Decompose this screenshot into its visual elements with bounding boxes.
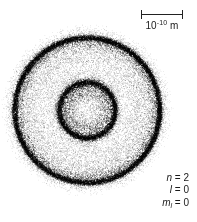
electron-cloud-figure: 10-10 m n = 2 l = 0 ml = 0 (0, 0, 197, 222)
quantum-number-annotations: n = 2 l = 0 ml = 0 (162, 172, 189, 211)
scale-bar-value: 10 (145, 20, 156, 31)
quantum-equals-n: = (175, 172, 181, 183)
scale-bar-exponent: -10 (157, 19, 167, 26)
quantum-symbol-n: n (166, 172, 172, 183)
quantum-subscript-l: l (170, 202, 172, 209)
scale-bar-line (141, 14, 183, 15)
scale-bar-label: 10-10 m (138, 20, 186, 32)
quantum-number-n: n = 2 (162, 172, 189, 185)
quantum-value-ml: 0 (183, 197, 189, 208)
quantum-value-l: 0 (183, 184, 189, 195)
scale-bar-tick-right (182, 10, 183, 19)
scale-bar-rule (141, 10, 183, 19)
scale-bar-unit: m (170, 20, 178, 31)
quantum-symbol-l: l (170, 184, 172, 195)
scale-bar: 10-10 m (138, 10, 188, 32)
quantum-equals-l: = (175, 184, 181, 195)
quantum-number-l: l = 0 (162, 184, 189, 197)
scale-bar-tick-left (141, 10, 142, 19)
quantum-equals-ml: = (175, 197, 181, 208)
quantum-value-n: 2 (183, 172, 189, 183)
quantum-number-ml: ml = 0 (162, 197, 189, 211)
